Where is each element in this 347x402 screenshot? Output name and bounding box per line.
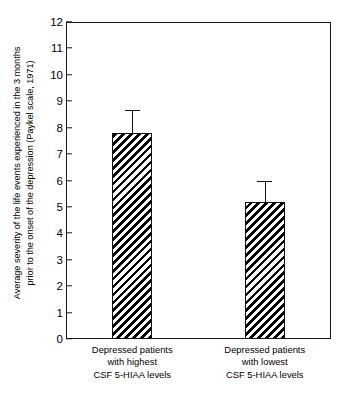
y-axis-tick-mark	[66, 127, 72, 128]
x-axis-category-label-1-line-2: with highest	[62, 356, 202, 368]
chart-figure: Average severity of the life events expe…	[0, 0, 347, 402]
error-bar-cap-1	[125, 110, 140, 111]
x-axis-category-label-2-line-3: CSF 5-HIAA levels	[195, 369, 335, 381]
y-axis-tick-label: 3	[41, 254, 63, 266]
x-axis-category-label-2-line-1: Depressed patients	[195, 344, 335, 356]
y-axis-tick-mark	[66, 180, 72, 181]
plot-area-frame	[66, 22, 331, 339]
y-axis-tick-label: 11	[41, 42, 63, 54]
x-axis-category-label-2: Depressed patientswith lowestCSF 5-HIAA …	[195, 344, 335, 381]
y-axis-tick-label: 1	[41, 307, 63, 319]
error-bar-cap-2	[257, 181, 272, 182]
y-axis-title-line-1: Average severity of the life events expe…	[11, 46, 24, 299]
y-axis-tick-mark	[66, 259, 72, 260]
y-axis-tick-label: 7	[41, 148, 63, 160]
error-bar-stem-2	[265, 181, 266, 202]
y-axis-tick-mark	[66, 21, 72, 22]
y-axis-tick-mark	[66, 206, 72, 207]
y-axis-tick-mark	[66, 233, 72, 234]
bar-1	[112, 133, 152, 339]
y-axis-title-text: Average severity of the life events expe…	[11, 46, 36, 299]
y-axis-tick-label: 2	[41, 280, 63, 292]
y-axis-tick-mark	[66, 153, 72, 154]
y-axis-tick-label: 9	[41, 95, 63, 107]
y-axis-tick-label: 8	[41, 122, 63, 134]
x-axis-category-label-1-line-3: CSF 5-HIAA levels	[62, 369, 202, 381]
y-axis-tick-mark	[66, 338, 72, 339]
y-axis-tick-mark	[66, 312, 72, 313]
x-axis-category-label-1-line-1: Depressed patients	[62, 344, 202, 356]
y-axis-tick-mark	[66, 101, 72, 102]
y-axis-title-line-2: prior to the onset of the depression (Pa…	[23, 46, 36, 299]
x-axis-category-label-1: Depressed patientswith highestCSF 5-HIAA…	[62, 344, 202, 381]
y-axis-tick-label: 12	[41, 16, 63, 28]
bar-2	[245, 202, 285, 339]
error-bar-stem-1	[132, 110, 133, 132]
y-axis-tick-mark	[66, 74, 72, 75]
y-axis-tick-mark	[66, 48, 72, 49]
y-axis-tick-label: 0	[41, 333, 63, 345]
y-axis-tick-label: 4	[41, 227, 63, 239]
y-axis-tick-label: 10	[41, 69, 63, 81]
x-axis-category-label-2-line-2: with lowest	[195, 356, 335, 368]
y-axis-tick-label: 6	[41, 175, 63, 187]
y-axis-tick-label: 5	[41, 201, 63, 213]
y-axis-tick-mark	[66, 285, 72, 286]
y-axis-title: Average severity of the life events expe…	[0, 0, 46, 345]
